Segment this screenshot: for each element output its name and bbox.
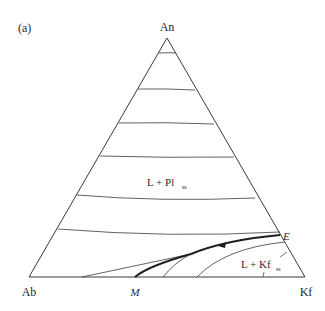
point-label-e: E	[282, 230, 290, 242]
isotherm-3	[119, 123, 214, 124]
field-label-kfeldspar: L + Kf ss	[241, 258, 281, 272]
vertex-label-an: An	[160, 20, 175, 34]
isotherm-5	[77, 195, 255, 199]
isotherm-6	[58, 229, 280, 234]
field-label-plagioclase-main: L + Pl	[147, 176, 174, 188]
point-label-m: M	[129, 286, 140, 298]
panel-label: (a)	[18, 21, 31, 35]
kf-label-leader-2	[263, 272, 264, 277]
vertex-label-kf: Kf	[300, 285, 313, 299]
field-label-kfeldspar-main: L + Kf	[241, 258, 271, 270]
vertex-label-ab: Ab	[22, 285, 37, 299]
isotherm-2	[138, 89, 195, 90]
kf-label-leader-1	[280, 252, 287, 257]
plagioclase-isotherms	[58, 53, 280, 235]
thin-boundary-line	[82, 254, 191, 277]
cotectic-curve	[135, 235, 280, 277]
ternary-diagram: (a) An Ab Kf E M L + Pl ss L + Kf ss	[0, 0, 325, 311]
isotherm-4	[100, 156, 234, 157]
field-label-kfeldspar-sub: ss	[276, 266, 281, 272]
field-label-plagioclase-sub: ss	[182, 184, 187, 190]
field-label-plagioclase: L + Pl ss	[147, 176, 187, 190]
